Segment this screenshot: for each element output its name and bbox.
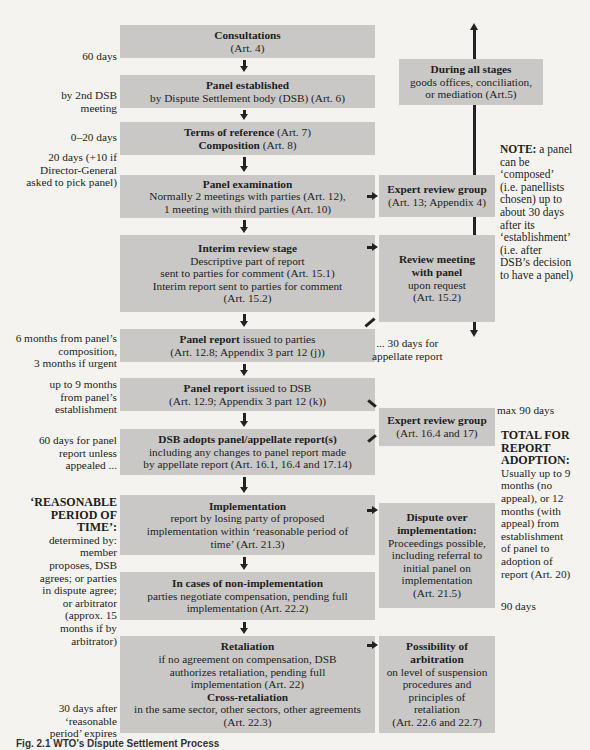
timing-label: up to 9 months from panel’s establishmen… — [50, 378, 117, 416]
box-title: DSB adopts panel/appellate report(s) — [124, 433, 371, 446]
box-detail: 1 meeting with third parties (Art. 10) — [124, 203, 371, 216]
box-expert-review-1: Expert review group (Art. 13; Appendix 4… — [379, 175, 495, 217]
box-detail: (Art. 15.2) — [124, 292, 371, 305]
connector-line — [473, 105, 476, 175]
label-line: ‘establishment’ — [500, 231, 573, 244]
label-line: 90 days — [501, 600, 536, 613]
total-adoption-note: TOTAL FOR REPORT ADOPTION: Usually up to… — [501, 429, 570, 580]
label-line: (i.e. panellists — [500, 181, 573, 194]
label-line: 0–20 days — [71, 131, 117, 144]
box-title-2: implementation: — [383, 524, 491, 537]
arrow-down-icon — [243, 364, 246, 371]
box-detail: including referral to — [383, 549, 491, 562]
box-detail: upon request — [383, 279, 491, 292]
arrow-down-icon — [243, 622, 246, 629]
label-line: adoption of — [501, 555, 570, 568]
box-detail: initial panel on — [383, 562, 491, 575]
note-panel-composed: NOTE: a panel can be ‘composed’ (i.e. pa… — [500, 143, 573, 282]
box-detail: (Art. 22.3) — [124, 716, 371, 729]
box-title-2: Cross-retaliation — [124, 691, 371, 704]
label-line: chosen) up to — [500, 193, 573, 206]
box-title: Panel report — [184, 382, 244, 394]
label-line: arbitrator) — [30, 635, 117, 648]
label-line: months if by — [30, 622, 117, 635]
box-detail: (Art. 16.4 and 17) — [383, 427, 491, 440]
box-detail: authorizes retaliation, pending full — [124, 666, 371, 679]
box-detail: by Dispute Settlement body (DSB) (Art. 6… — [124, 92, 371, 105]
box-detail: (Art. 22.6 and 22.7) — [383, 716, 491, 729]
label-line: months (with — [501, 505, 570, 518]
timing-label: 60 days — [82, 50, 117, 63]
appellate-note: ... 30 days for appellate report — [372, 337, 443, 362]
ninety-days-label: 90 days — [501, 600, 536, 613]
box-detail: Normally 2 meetings with parties (Art. 1… — [124, 190, 371, 203]
label-line: agrees; or parties — [30, 572, 117, 585]
connector-line — [473, 217, 476, 235]
arrow-down-icon — [243, 413, 246, 422]
box-title: Review meeting — [383, 253, 491, 266]
box-review-meeting: Review meeting with panel upon request (… — [379, 235, 495, 322]
label-line: report (Art. 20) — [501, 568, 570, 581]
box-dispute-over-implementation: Dispute over implementation: Proceedings… — [379, 503, 495, 608]
label-line: about 30 days — [500, 206, 573, 219]
label-line: a panel — [536, 143, 572, 155]
box-detail: report by losing party of proposed — [124, 512, 371, 525]
label-line: (i.e. after — [500, 244, 573, 257]
box-detail: Descriptive part of report — [124, 255, 371, 268]
label-line: Director-General — [26, 164, 117, 177]
timing-label: by 2nd DSB meeting — [61, 89, 117, 114]
box-implementation: Implementation report by losing party of… — [120, 495, 375, 555]
label-line: appellate report — [372, 350, 443, 363]
arrow-down-icon — [473, 322, 476, 331]
box-detail: time’ (Art. 21.3) — [124, 538, 371, 551]
label-line: appeal), or 12 — [501, 492, 570, 505]
box-consultations: Consultations (Art. 4) — [120, 25, 375, 58]
box-detail: Interim report sent to parties for comme… — [124, 280, 371, 293]
label-line: appeal) from — [501, 517, 570, 530]
box-interim-review: Interim review stage Descriptive part of… — [120, 235, 375, 312]
box-detail: including any changes to panel report ma… — [124, 446, 371, 459]
label-line: up to 9 months — [50, 378, 117, 391]
label-line: 20 days (+10 if — [26, 151, 117, 164]
reasonable-period-label: ‘REASONABLE PERIOD OF TIME’: determined … — [30, 496, 117, 647]
label-line: ... 30 days for — [372, 337, 443, 350]
box-title: Panel established — [124, 79, 371, 92]
label-line: to have a panel) — [500, 269, 573, 282]
box-title: Expert review group — [383, 183, 491, 196]
box-detail: issued to DSB — [247, 382, 312, 394]
box-detail: implementation (Art. 22) — [124, 678, 371, 691]
label-line: max 90 days — [497, 404, 554, 417]
box-detail: procedures and — [383, 678, 491, 691]
figure-caption: Fig. 2.1 WTO's Dispute Settlement Proces… — [16, 738, 219, 749]
arrow-down-icon — [243, 60, 246, 67]
box-arbitration: Possibility of arbitration on level of s… — [379, 636, 495, 733]
box-panel-report-parties: Panel report issued to parties (Art. 12.… — [120, 329, 375, 362]
arrow-right-icon — [367, 195, 373, 198]
box-title: Possibility of — [383, 640, 491, 653]
box-panel-report-dsb: Panel report issued to DSB (Art. 12.9; A… — [120, 378, 375, 411]
label-line: Usually up to 9 — [501, 467, 570, 480]
arrow-down-icon — [243, 477, 246, 488]
box-detail: by appellate report (Art. 16.1, 16.4 and… — [124, 458, 371, 471]
box-title: During all stages — [403, 63, 539, 76]
box-detail: retaliation — [383, 703, 491, 716]
box-title: Implementation — [124, 500, 371, 513]
box-detail: (Art. 7) — [277, 126, 311, 138]
label-line: proposes, DSB — [30, 559, 117, 572]
arrow-down-icon — [243, 157, 246, 167]
label-line: DSB’s decision — [500, 256, 573, 269]
box-title: Dispute over — [383, 511, 491, 524]
label-line: TOTAL FOR — [501, 429, 570, 442]
box-panel-established: Panel established by Dispute Settlement … — [120, 75, 375, 108]
box-title: Panel examination — [124, 178, 371, 191]
label-line: TIME’: — [30, 521, 117, 534]
box-title: Retaliation — [124, 640, 371, 653]
note-label: NOTE: — [500, 143, 536, 155]
box-detail: goods offices, conciliation, — [403, 76, 539, 89]
label-line: of panel to — [501, 542, 570, 555]
box-detail: if no agreement on compensation, DSB — [124, 653, 371, 666]
label-line: 60 days for panel — [39, 434, 117, 447]
arrow-down-icon — [243, 220, 246, 228]
box-title: Interim review stage — [124, 242, 371, 255]
box-non-implementation: In cases of non-implementation parties n… — [120, 572, 375, 620]
